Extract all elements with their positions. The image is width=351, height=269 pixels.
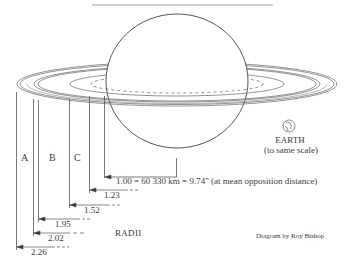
saturn-globe [106,14,248,148]
scale-caption: 1.00 = 60 330 km = 9.74" (at mean opposi… [116,177,317,186]
earth-subtitle: (to same scale) [264,146,316,155]
earth-globe-icon [283,120,295,132]
radius-value-1.52: 1.52 [84,206,100,215]
diagram-credit: Diagram by Roy Bishop [256,233,324,240]
radius-value-1.95: 1.95 [55,220,71,229]
ring-label-c: C [74,153,81,163]
ring-label-b: B [49,153,56,163]
radius-value-2.02: 2.02 [48,234,64,243]
radius-value-2.26: 2.26 [31,248,47,257]
ring-label-a: A [21,153,28,163]
earth-label: EARTH (to same scale) [264,136,316,155]
earth-title: EARTH [264,136,316,145]
radii-title: RADII [115,229,142,238]
radius-value-1.23: 1.23 [104,191,120,200]
